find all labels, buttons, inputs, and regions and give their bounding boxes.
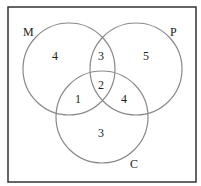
- region-m-only: 4: [52, 49, 58, 63]
- region-m-p: 3: [98, 49, 104, 63]
- label-p: P: [170, 25, 177, 39]
- universal-set-border: [8, 7, 196, 182]
- label-m: M: [23, 25, 34, 39]
- region-p-only: 5: [143, 49, 149, 63]
- circle-m: [23, 23, 115, 115]
- region-m-c: 1: [75, 92, 81, 106]
- venn-diagram: M P C 4 5 3 2 1 4 3: [0, 0, 201, 186]
- label-c: C: [130, 157, 138, 171]
- region-p-c: 4: [121, 92, 127, 106]
- circle-p: [90, 23, 182, 115]
- region-m-p-c: 2: [98, 78, 104, 92]
- region-c-only: 3: [98, 126, 104, 140]
